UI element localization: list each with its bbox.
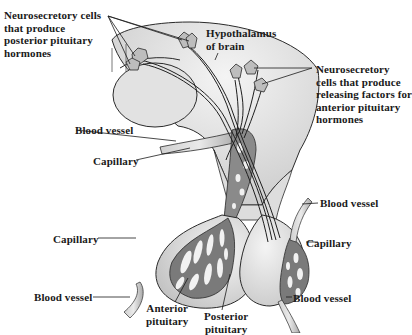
- label-anterior-pituitary: Anterior pituitary: [146, 302, 188, 327]
- label-blood-vessel-lower-left: Blood vessel: [34, 291, 92, 304]
- label-blood-vessel-upper-left: Blood vessel: [75, 124, 133, 137]
- label-posterior-pituitary: Posterior pituitary: [204, 310, 248, 335]
- lower-left-blood-vessel: [124, 282, 143, 318]
- label-hypothalamus: Hypothalamus of brain: [206, 27, 276, 52]
- label-blood-vessel-lower-right: Blood vessel: [293, 292, 351, 305]
- label-capillary-upper-left: Capillary: [93, 155, 139, 168]
- label-neurosecretory-posterior: Neurosecretory cells that produce poster…: [4, 9, 101, 59]
- label-capillary-left: Capillary: [53, 233, 99, 246]
- label-capillary-right: Capillary: [306, 237, 352, 250]
- label-neurosecretory-anterior: Neurosecretory cells that produce releas…: [316, 63, 412, 126]
- label-blood-vessel-upper-right: Blood vessel: [320, 197, 378, 210]
